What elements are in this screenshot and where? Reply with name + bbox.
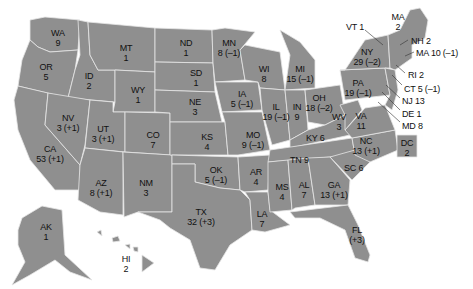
state-hi-1	[97, 230, 102, 236]
label-or: OR5	[39, 62, 52, 82]
state-ak	[12, 206, 92, 285]
label-ar: AR4	[250, 167, 262, 187]
state-sd	[155, 62, 215, 92]
label-sc: SC 6	[344, 163, 363, 173]
label-mn: MN8 (–1)	[218, 38, 240, 58]
label-ca: CA53 (+1)	[36, 144, 63, 164]
state-hi-2	[112, 236, 120, 242]
label-tx: TX32 (+3)	[187, 207, 214, 227]
state-hi-4	[133, 247, 138, 252]
label-ga: GA13 (+1)	[320, 180, 347, 200]
label-pa: PA19 (–1)	[344, 78, 371, 98]
label-va: VA11	[356, 111, 367, 131]
callout-de: DE 1	[402, 109, 421, 119]
callout-ri: RI 2	[408, 70, 424, 80]
label-dc: DC2	[401, 138, 414, 158]
label-ut: UT3 (+1)	[92, 124, 115, 144]
label-nm: NM3	[139, 178, 153, 198]
callout-vt: VT 1	[346, 22, 364, 32]
label-ky: KY 6	[306, 133, 325, 143]
label-la: LA7	[257, 209, 268, 229]
label-wi: WI8	[259, 64, 270, 84]
label-sd: SD1	[190, 68, 202, 88]
state-ks	[170, 122, 228, 155]
label-nd: ND1	[180, 38, 193, 58]
state-hi-3	[125, 244, 130, 249]
label-mt: MT1	[120, 43, 133, 63]
label-ms: MS4	[275, 182, 288, 202]
label-oh: OH18 (–2)	[305, 93, 332, 113]
label-ne: NE3	[189, 97, 201, 117]
label-nc: NC13 (+1)	[352, 136, 379, 156]
callout-nh: NH 2	[411, 36, 431, 46]
label-co: CO7	[146, 130, 159, 150]
label-wv: WV3	[332, 112, 346, 132]
label-me: MA2	[391, 12, 404, 32]
label-al: AL7	[299, 180, 310, 200]
label-ok: OK5 (–1)	[205, 165, 227, 185]
callout-md: MD 8	[402, 121, 423, 131]
label-ny: NY29 (–2)	[353, 47, 380, 67]
label-il: IL19 (–1)	[262, 102, 289, 122]
label-ia: IA5 (–1)	[231, 89, 253, 109]
callout-ct: CT 5 (–1)	[404, 84, 440, 94]
label-ks: KS4	[201, 132, 213, 152]
label-tn: TN 9	[290, 155, 309, 165]
callout-ma: MA 10 (–1)	[416, 48, 458, 58]
label-fl: FL(+3)	[349, 225, 364, 245]
label-in: IN9	[293, 102, 302, 122]
label-id: ID2	[85, 71, 94, 91]
callout-nj: NJ 13	[402, 96, 425, 106]
label-nv: NV3 (+1)	[57, 113, 80, 133]
label-wy: WY1	[131, 85, 145, 105]
label-ak: AK1	[40, 222, 52, 242]
label-hi: HI2	[122, 254, 131, 274]
label-mi: MI15 (–1)	[286, 64, 313, 84]
state-hi-5	[142, 255, 154, 272]
label-mo: MO9 (–1)	[242, 130, 264, 150]
label-wa: WA9	[51, 28, 65, 48]
label-az: AZ8 (+1)	[90, 178, 113, 198]
